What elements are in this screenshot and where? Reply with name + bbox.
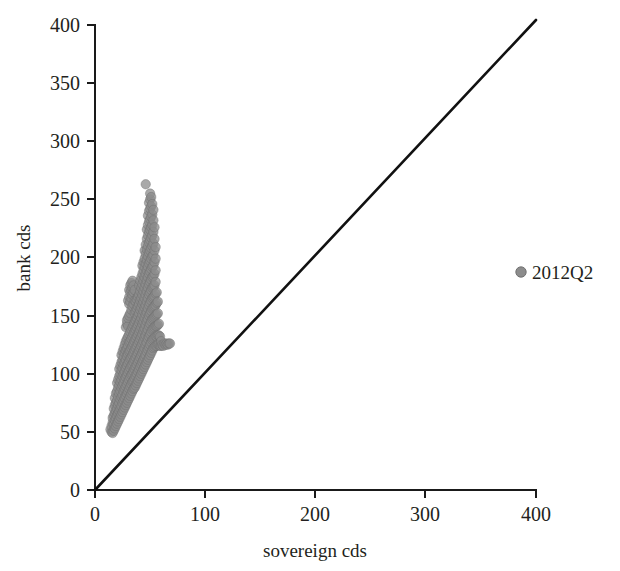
y-tick-label-100: 100 [50,363,80,385]
y-axis-tick-labels: 400 350 300 250 200 150 100 50 0 [50,14,80,501]
scatter-point [153,309,162,318]
scatter-point [153,297,162,306]
legend: 2012Q2 [516,262,593,283]
scatter-point [151,266,160,275]
y-tick-label-150: 150 [50,305,80,327]
x-axis-tick-labels: 0 100 200 300 400 [90,503,551,525]
y-axis-ticks [87,25,95,490]
y-tick-label-300: 300 [50,130,80,152]
y-tick-label-0: 0 [70,479,80,501]
legend-label-2012Q2[interactable]: 2012Q2 [532,262,593,283]
x-tick-label-300: 300 [410,503,440,525]
x-axis-title: sovereign cds [263,540,367,561]
scatter-points-layer [106,180,175,438]
identity-reference-line [95,20,536,490]
scatter-point [165,339,174,348]
scatter-point [150,223,159,232]
scatter-point [149,205,158,214]
x-tick-label-0: 0 [90,503,100,525]
scatter-point [151,277,160,286]
legend-marker-2012Q2[interactable] [516,267,526,277]
y-tick-label-350: 350 [50,72,80,94]
scatter-point [154,319,163,328]
y-tick-label-400: 400 [50,14,80,36]
scatter-point [151,254,160,263]
y-axis-title: bank cds [13,224,34,291]
scatter-point [151,242,160,251]
x-axis-ticks [95,490,536,498]
y-tick-label-200: 200 [50,246,80,268]
x-tick-label-200: 200 [300,503,330,525]
y-tick-label-250: 250 [50,188,80,210]
series-2012Q2 [106,180,175,438]
scatter-point [152,288,161,297]
scatter-point [141,180,150,189]
y-tick-label-50: 50 [60,421,80,443]
scatter-plot-figure: 400 350 300 250 200 150 100 50 0 0 100 2… [0,0,620,571]
chart-canvas: 400 350 300 250 200 150 100 50 0 0 100 2… [0,0,620,571]
x-tick-label-400: 400 [521,503,551,525]
x-tick-label-100: 100 [190,503,220,525]
